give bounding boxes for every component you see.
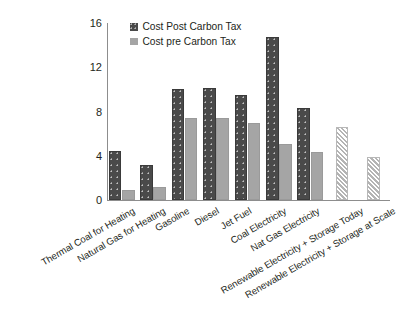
bar-natural-gas-for-heating-cost-pre-carbon-tax xyxy=(153,187,166,200)
x-label-gasoline: Gasoline xyxy=(153,205,191,233)
y-tick-label-4: 4 xyxy=(76,150,102,162)
bar-jet-fuel-cost-post-carbon-tax xyxy=(235,95,248,200)
bar-group xyxy=(367,22,380,200)
x-label-natural-gas-for-heating: Natural Gas for Heating xyxy=(76,205,168,264)
bar-coal-electricity-cost-post-carbon-tax xyxy=(266,37,279,200)
x-label-thermal-coal-for-heating: Thermal Coal for Heating xyxy=(40,205,137,268)
y-tick-label-0: 0 xyxy=(76,194,102,206)
bar-renewable-electricity-storage-today-renewable-no-tax-impact xyxy=(336,127,349,200)
bar-diesel-cost-post-carbon-tax xyxy=(203,88,216,200)
bar-renewable-electricity-storage-at-scale-renewable-no-tax-impact xyxy=(367,157,380,200)
x-label-jet-fuel: Jet Fuel xyxy=(218,205,253,231)
y-tick-label-8: 8 xyxy=(76,106,102,118)
bar-gasoline-cost-post-carbon-tax xyxy=(172,89,185,200)
bar-natural-gas-for-heating-cost-post-carbon-tax xyxy=(140,165,153,200)
legend-swatch-dark-icon xyxy=(130,23,138,31)
x-axis-line xyxy=(107,200,390,201)
x-label-nat-gas-electricity: Nat Gas Electricity xyxy=(249,205,322,254)
x-label-coal-electricity: Coal Electricity xyxy=(229,205,289,246)
legend-item-post-tax: Cost Post Carbon Tax xyxy=(130,20,241,34)
x-label-renewable-electricity-storage-at-scale: Renewable Electricity + Storage at Scale xyxy=(243,205,397,300)
bar-nat-gas-electricity-cost-pre-carbon-tax xyxy=(311,152,324,200)
legend-label-pre-tax: Cost pre Carbon Tax xyxy=(143,35,236,49)
bar-diesel-cost-pre-carbon-tax xyxy=(216,118,229,200)
bar-thermal-coal-for-heating-cost-pre-carbon-tax xyxy=(122,190,135,200)
x-label-diesel: Diesel xyxy=(192,205,220,228)
bar-group xyxy=(266,22,292,200)
legend-item-pre-tax: Cost pre Carbon Tax xyxy=(130,35,241,49)
legend-label-post-tax: Cost Post Carbon Tax xyxy=(143,20,242,34)
bar-group xyxy=(297,22,323,200)
legend-swatch-light-icon xyxy=(130,38,138,46)
bar-jet-fuel-cost-pre-carbon-tax xyxy=(248,123,261,200)
y-tick-label-16: 16 xyxy=(76,17,102,29)
legend: Cost Post Carbon Tax Cost pre Carbon Tax xyxy=(130,20,241,49)
bar-chart: Impact of a $100 per tonne Carbon Tax (p… xyxy=(0,0,414,334)
y-tick-label-12: 12 xyxy=(76,61,102,73)
bar-gasoline-cost-pre-carbon-tax xyxy=(185,118,198,200)
bar-nat-gas-electricity-cost-post-carbon-tax xyxy=(297,108,310,200)
bar-group xyxy=(336,22,349,200)
bar-coal-electricity-cost-pre-carbon-tax xyxy=(279,144,292,200)
bar-thermal-coal-for-heating-cost-post-carbon-tax xyxy=(109,151,122,200)
x-label-renewable-electricity-storage-today: Renewable Electricity + Storage Today xyxy=(218,205,364,296)
